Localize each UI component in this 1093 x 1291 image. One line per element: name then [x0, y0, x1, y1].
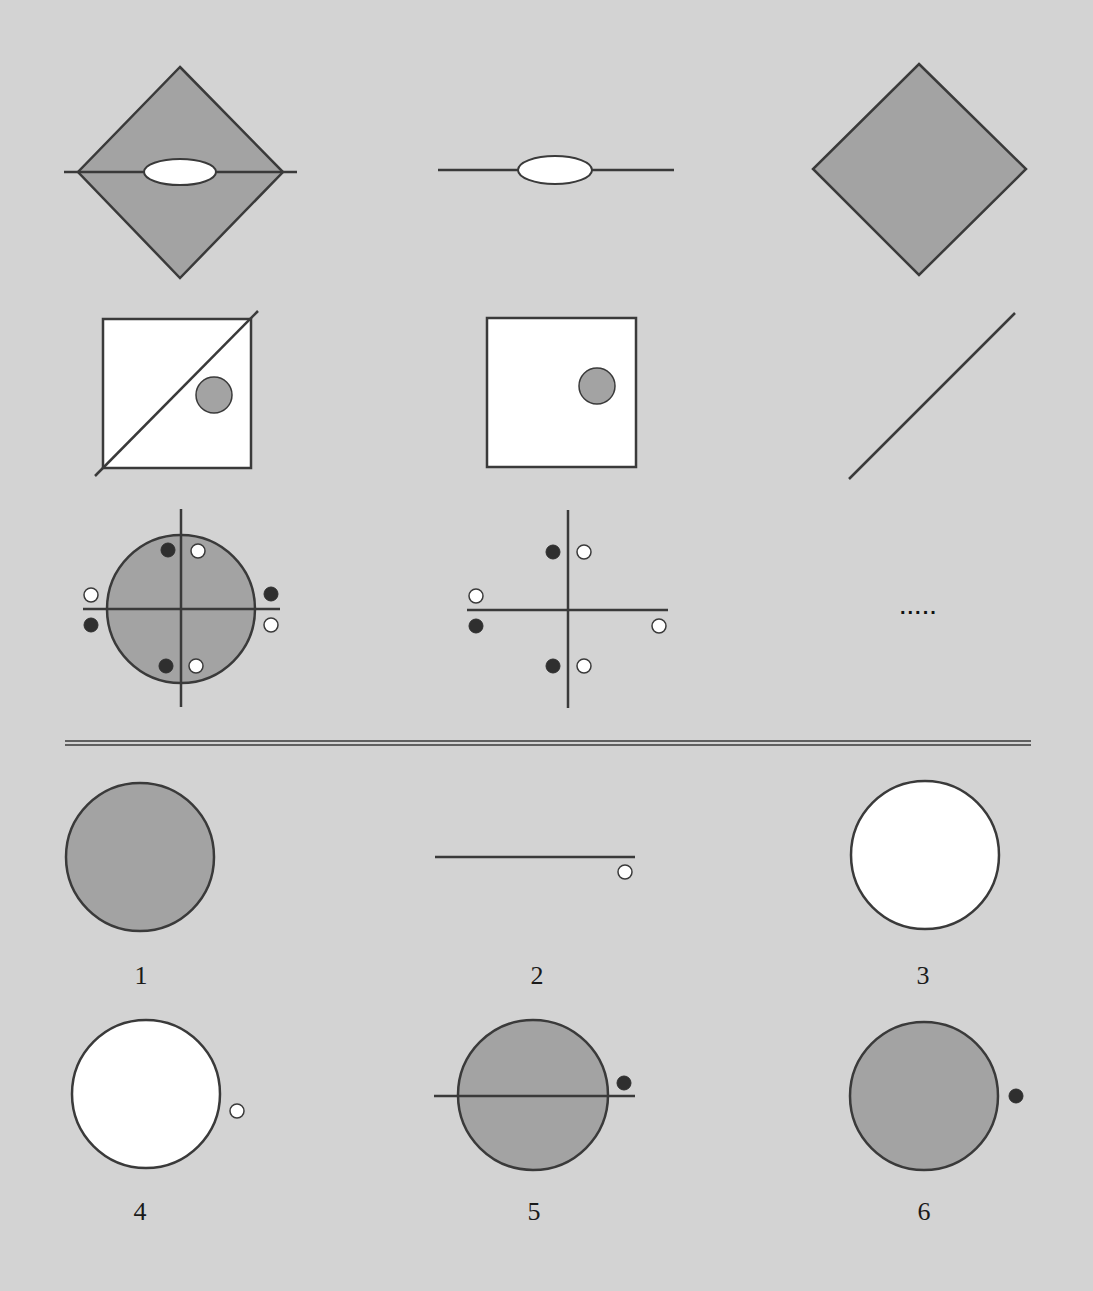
gray-diamond-shape — [813, 64, 1026, 275]
black-dot — [617, 1076, 631, 1090]
option-3-label[interactable]: 3 — [917, 963, 930, 989]
option-2-figure[interactable] — [435, 857, 635, 879]
cell-r3c2 — [467, 510, 668, 708]
white-dot — [230, 1104, 244, 1118]
white-dot — [84, 588, 98, 602]
gray-circle-shape — [66, 783, 214, 931]
white-ellipse-shape — [144, 159, 216, 185]
option-2-label[interactable]: 2 — [531, 963, 544, 989]
black-dot — [546, 545, 560, 559]
white-dot — [577, 659, 591, 673]
black-dot — [161, 543, 175, 557]
black-dot — [469, 619, 483, 633]
cell-r1c3 — [813, 64, 1026, 275]
option-1-figure[interactable] — [66, 783, 214, 931]
small-gray-circle-shape — [196, 377, 232, 413]
cell-r3c1 — [83, 509, 280, 707]
option-4-label[interactable]: 4 — [134, 1199, 147, 1225]
white-dot — [189, 659, 203, 673]
white-ellipse-shape — [518, 156, 592, 184]
option-6-label[interactable]: 6 — [918, 1199, 931, 1225]
white-circle-shape — [851, 781, 999, 929]
white-dot — [577, 545, 591, 559]
black-dot — [1009, 1089, 1023, 1103]
cell-r1c2 — [438, 156, 674, 184]
small-gray-circle-shape — [579, 368, 615, 404]
black-dot — [84, 618, 98, 632]
white-circle-shape — [72, 1020, 220, 1168]
option-5-label[interactable]: 5 — [528, 1199, 541, 1225]
separator-double-line — [65, 741, 1031, 745]
white-dot — [191, 544, 205, 558]
white-dot — [652, 619, 666, 633]
diagonal-line-shape — [849, 313, 1015, 479]
black-dot — [159, 659, 173, 673]
cell-r2c3 — [849, 313, 1015, 479]
cell-r1c1 — [64, 67, 297, 278]
puzzle-canvas — [0, 0, 1093, 1291]
black-dot — [546, 659, 560, 673]
cell-r2c2 — [487, 318, 636, 467]
option-5-figure[interactable] — [434, 1020, 635, 1170]
black-dot — [264, 587, 278, 601]
white-dot — [469, 589, 483, 603]
missing-cell-placeholder: ..... — [900, 596, 938, 619]
white-dot — [264, 618, 278, 632]
gray-circle-shape — [850, 1022, 998, 1170]
option-3-figure[interactable] — [851, 781, 999, 929]
option-4-figure[interactable] — [72, 1020, 244, 1168]
cell-r2c1 — [95, 311, 258, 476]
option-1-label[interactable]: 1 — [135, 963, 148, 989]
option-6-figure[interactable] — [850, 1022, 1023, 1170]
white-dot — [618, 865, 632, 879]
